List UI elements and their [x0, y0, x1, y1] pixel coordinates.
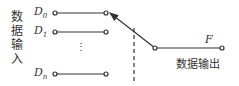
multiplexer-diagram: 数据输入 D0 D1 Dn ⋮ F 数据输出 — [0, 0, 239, 86]
diagram-lines — [0, 0, 239, 86]
output-label-f: F — [205, 33, 213, 46]
ellipsis: ⋮ — [76, 44, 86, 49]
output-text: 数据输出 — [176, 55, 220, 71]
